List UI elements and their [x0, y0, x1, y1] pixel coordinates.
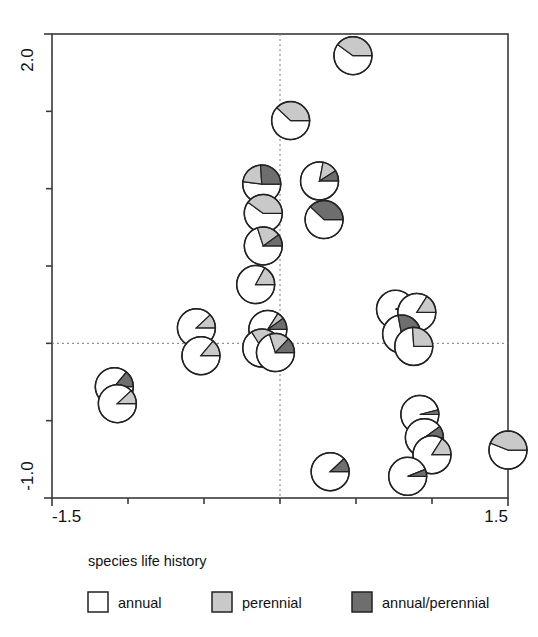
scatter-pie-chart: 2.0 -1.0 -1.5 1.5 species life history a…	[0, 0, 538, 637]
pie-marker	[301, 162, 339, 200]
x-axis-right-label: 1.5	[484, 507, 508, 526]
legend-item-annual-perennial: annual/perennial	[352, 592, 489, 612]
pie-marker	[311, 453, 349, 491]
legend-swatch-perennial	[212, 592, 232, 612]
figure: 2.0 -1.0 -1.5 1.5 species life history a…	[0, 0, 538, 637]
y-axis-top-label: 2.0	[18, 48, 37, 72]
x-axis-left-label: -1.5	[52, 507, 81, 526]
legend-label-annual-perennial: annual/perennial	[382, 595, 489, 611]
pie-marker	[305, 201, 343, 239]
pie-marker	[395, 327, 433, 365]
pie-marker	[489, 431, 527, 469]
legend-label-annual: annual	[118, 595, 162, 611]
pie-marker	[237, 266, 275, 304]
legend-title: species life history	[88, 553, 207, 569]
legend-item-annual: annual	[88, 592, 162, 612]
legend-item-perennial: perennial	[212, 592, 302, 612]
x-axis-ticks	[52, 498, 508, 506]
legend: species life history annual perennial an…	[88, 553, 489, 612]
pie-marker	[272, 102, 310, 140]
y-axis-ticks	[44, 34, 52, 498]
pie-marker	[256, 334, 294, 372]
pie-marker	[389, 457, 427, 495]
pie-marker	[98, 385, 136, 423]
pie-marker	[182, 337, 220, 375]
legend-swatch-annual	[88, 592, 108, 612]
pie-marker	[244, 227, 282, 265]
y-axis-bottom-label: -1.0	[18, 461, 37, 490]
legend-swatch-annual-perennial	[352, 592, 372, 612]
legend-label-perennial: perennial	[242, 595, 302, 611]
pie-marker	[334, 37, 372, 75]
